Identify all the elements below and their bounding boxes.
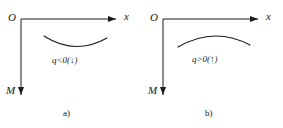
load-sign-label: q<0(↓) [52,56,78,65]
panel-caption: a) [63,109,70,118]
origin-label: O [8,12,16,23]
bending-moment-curve [44,36,107,47]
panel-b-axes-and-curve [142,0,283,128]
panel-a: O x M q<0(↓) a) [0,0,141,128]
load-sign-label: q>0(↑) [192,55,218,64]
x-axis-label: x [124,11,129,22]
moment-axis-arrowhead [18,87,24,95]
origin-label: O [150,12,158,23]
panel-b: O x M q>0(↑) b) [142,0,283,128]
bending-moment-curve [178,36,250,47]
x-axis-label: x [266,11,271,22]
bending-moment-sign-convention-figure: O x M q<0(↓) a) O x M q>0(↑) b) [0,0,283,128]
x-axis-arrowhead [250,16,258,22]
panel-caption: b) [205,109,213,118]
moment-axis-label: M [148,85,157,96]
moment-axis-arrowhead [160,87,166,95]
x-axis-arrowhead [108,16,116,22]
moment-axis-label: M [6,85,15,96]
